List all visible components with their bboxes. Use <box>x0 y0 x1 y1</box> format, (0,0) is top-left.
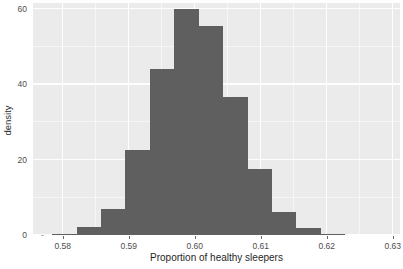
gridline-vertical-major <box>326 3 327 235</box>
gridline-vertical-major <box>392 3 393 235</box>
histogram-bar <box>150 69 174 235</box>
y-axis-tick-label: 20 <box>18 155 27 165</box>
x-axis-tick-mark <box>327 236 328 239</box>
x-axis-tick-label: 0.62 <box>318 241 335 251</box>
y-axis-tick-labels: 0204060 <box>12 0 27 240</box>
histogram-bar <box>52 234 76 235</box>
y-axis-tick-label: 40 <box>18 79 27 89</box>
y-axis-label-text: density <box>2 105 13 135</box>
x-axis-tick-mark <box>261 236 262 239</box>
histogram-bar <box>174 9 198 235</box>
gridline-vertical-minor <box>293 3 294 235</box>
gridline-horizontal-major <box>33 8 400 9</box>
histogram-chart: density 0204060 0.580.590.600.610.620.63… <box>0 0 403 269</box>
gridline-vertical-minor <box>95 3 96 235</box>
histogram-bar <box>321 234 345 235</box>
x-axis-tick-label: 0.59 <box>120 241 137 251</box>
x-axis-label: Proportion of healthy sleepers <box>33 252 400 263</box>
x-axis-tick-mark <box>63 236 64 239</box>
histogram-bar <box>199 26 223 235</box>
gridline-vertical-major <box>62 3 63 235</box>
x-axis-tick-mark <box>129 236 130 239</box>
histogram-bar <box>248 169 272 235</box>
histogram-bar <box>296 228 320 235</box>
x-axis-tick-mark <box>393 236 394 239</box>
gridline-vertical-minor <box>359 3 360 235</box>
histogram-bar <box>272 212 296 235</box>
histogram-bar <box>125 150 149 235</box>
y-axis-tick-label: 60 <box>18 4 27 14</box>
x-axis-tick-label: 0.58 <box>54 241 71 251</box>
histogram-bar <box>101 209 125 235</box>
x-axis-tick-label: 0.61 <box>252 241 269 251</box>
histogram-bar <box>223 97 247 235</box>
histogram-bar <box>77 227 101 235</box>
x-axis-tick-labels: 0.580.590.600.610.620.63 <box>0 236 403 252</box>
x-axis-tick-label: 0.63 <box>384 241 401 251</box>
x-axis-tick-mark <box>195 236 196 239</box>
plot-panel <box>33 3 400 235</box>
x-axis-tick-label: 0.60 <box>186 241 203 251</box>
